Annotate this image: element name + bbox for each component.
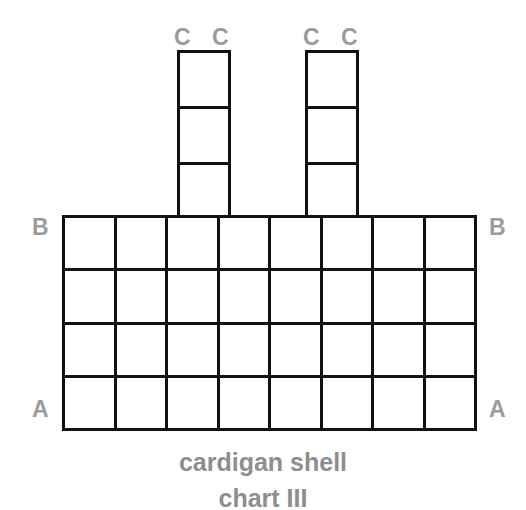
sleeve-left-label-c-left: C — [174, 26, 191, 49]
chart-caption-subtitle: chart III — [0, 486, 526, 510]
body-cell-r3c7 — [374, 325, 423, 375]
sleeve-left-grid — [177, 50, 231, 218]
body-cell-r4c2 — [117, 378, 166, 428]
body-label-a-right: A — [489, 398, 506, 421]
body-cell-r4c3 — [168, 378, 217, 428]
body-cell-r3c3 — [168, 325, 217, 375]
sleeve-right-cell-r1 — [308, 53, 356, 106]
body-cell-r2c5 — [271, 271, 320, 321]
body-cell-r4c4 — [220, 378, 269, 428]
body-cell-r1c1 — [65, 218, 114, 268]
body-cell-r2c6 — [323, 271, 372, 321]
sleeve-right-grid — [305, 50, 359, 218]
sleeve-right-label-c-left: C — [303, 26, 320, 49]
sleeve-left-cell-r2 — [180, 109, 228, 162]
body-cell-r3c4 — [220, 325, 269, 375]
body-cell-r1c2 — [117, 218, 166, 268]
body-cell-r3c6 — [323, 325, 372, 375]
body-label-b-left: B — [32, 216, 49, 239]
body-cell-r1c6 — [323, 218, 372, 268]
body-cell-r2c4 — [220, 271, 269, 321]
body-cell-r4c8 — [426, 378, 475, 428]
body-label-b-right: B — [489, 216, 506, 239]
body-cell-r4c7 — [374, 378, 423, 428]
body-cell-r4c5 — [271, 378, 320, 428]
body-cell-r2c3 — [168, 271, 217, 321]
body-cell-r2c2 — [117, 271, 166, 321]
body-cell-r3c2 — [117, 325, 166, 375]
chart-canvas: C C C C B B — [0, 0, 526, 510]
body-cell-r3c5 — [271, 325, 320, 375]
sleeve-right-cell-r2 — [308, 109, 356, 162]
body-cell-r2c8 — [426, 271, 475, 321]
body-cell-r2c7 — [374, 271, 423, 321]
sleeve-right-label-c-right: C — [341, 26, 358, 49]
body-cell-r3c8 — [426, 325, 475, 375]
body-cell-r3c1 — [65, 325, 114, 375]
body-cell-r1c8 — [426, 218, 475, 268]
body-cell-r1c4 — [220, 218, 269, 268]
sleeve-right-cell-r3 — [308, 165, 356, 218]
sleeve-left-label-c-right: C — [212, 26, 229, 49]
chart-caption-title: cardigan shell — [0, 450, 526, 475]
body-cell-r1c5 — [271, 218, 320, 268]
sleeve-left-cell-r3 — [180, 165, 228, 218]
body-grid — [62, 215, 477, 431]
body-cell-r1c3 — [168, 218, 217, 268]
sleeve-left-cell-r1 — [180, 53, 228, 106]
body-cell-r4c1 — [65, 378, 114, 428]
body-cell-r1c7 — [374, 218, 423, 268]
body-label-a-left: A — [32, 398, 49, 421]
body-cell-r4c6 — [323, 378, 372, 428]
body-cell-r2c1 — [65, 271, 114, 321]
